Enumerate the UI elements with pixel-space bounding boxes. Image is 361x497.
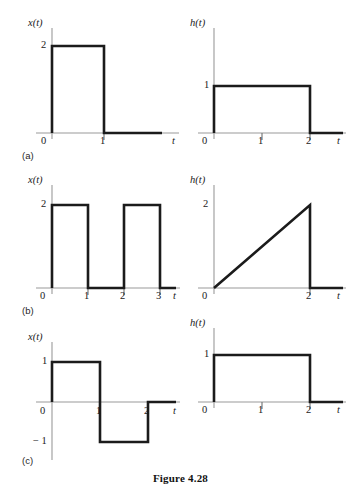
signal-trace — [52, 46, 162, 133]
x-tick-label-1: 1 — [96, 406, 101, 417]
signal-trace — [214, 86, 343, 133]
plot-a-left: x(t) 2 0 1 t — [34, 26, 184, 146]
origin-label: 0 — [202, 405, 207, 416]
y-axis-label: x(t) — [28, 175, 43, 186]
y-tick-label-1: 1 — [204, 349, 209, 360]
x-axis-label: t — [172, 136, 175, 147]
x-tick-label-1: 1 — [84, 291, 89, 302]
plot-c-right: h(t) 1 0 1 2 t — [196, 326, 351, 446]
x-tick-label-2: 2 — [120, 291, 125, 302]
x-tick-label-2: 2 — [144, 406, 149, 417]
y-tick-label-2: 2 — [41, 199, 46, 210]
signal-trace — [52, 205, 176, 288]
y-tick-label-2: 2 — [41, 40, 46, 51]
plot-c-left-canvas — [34, 340, 184, 465]
y-axis-label: x(t) — [28, 332, 43, 343]
row-label-c: (c) — [22, 455, 33, 466]
plot-b-right: h(t) 2 0 2 t — [196, 183, 351, 301]
figure-4-28: x(t) 2 0 1 t h(t) 1 0 1 2 t (a) x(t) — [0, 0, 361, 497]
plot-a-left-canvas — [34, 26, 184, 146]
x-axis-label: t — [337, 291, 340, 302]
origin-label: 0 — [202, 291, 207, 302]
row-label-a: (a) — [22, 150, 34, 161]
plot-b-left: x(t) 2 0 1 2 3 t — [34, 183, 184, 301]
y-tick-label-pos1: 1 — [42, 356, 47, 367]
x-axis-label: t — [173, 291, 176, 302]
figure-caption: Figure 4.28 — [0, 472, 361, 484]
plot-a-right-canvas — [196, 26, 351, 146]
plot-b-right-canvas — [196, 183, 351, 301]
y-axis-label: h(t) — [190, 175, 205, 186]
y-tick-label-neg1: − 1 — [33, 436, 47, 447]
signal-trace — [214, 205, 343, 288]
plot-a-right: h(t) 1 0 1 2 t — [196, 26, 351, 146]
signal-trace — [214, 355, 343, 402]
x-tick-label-1: 1 — [258, 136, 263, 147]
x-axis-label: t — [173, 406, 176, 417]
x-axis-label: t — [337, 136, 340, 147]
origin-label: 0 — [41, 136, 46, 147]
x-tick-label-1: 1 — [258, 405, 263, 416]
plot-c-left: x(t) 1 − 1 0 1 2 t — [34, 340, 184, 465]
origin-label: 0 — [40, 291, 45, 302]
x-tick-label-3: 3 — [156, 291, 161, 302]
y-axis-label: x(t) — [28, 18, 43, 29]
x-axis-label: t — [337, 405, 340, 416]
x-tick-label-1: 1 — [100, 136, 105, 147]
x-tick-label-2: 2 — [306, 291, 311, 302]
y-tick-label-2: 2 — [203, 199, 208, 210]
x-tick-label-2: 2 — [306, 136, 311, 147]
origin-label: 0 — [202, 136, 207, 147]
plot-c-right-canvas — [196, 326, 351, 446]
y-axis-label: h(t) — [190, 318, 205, 329]
row-label-b: (b) — [22, 305, 34, 316]
x-tick-label-2: 2 — [306, 405, 311, 416]
y-tick-label-1: 1 — [204, 80, 209, 91]
y-axis-label: h(t) — [190, 18, 205, 29]
origin-label: 0 — [40, 406, 45, 417]
plot-b-left-canvas — [34, 183, 184, 301]
